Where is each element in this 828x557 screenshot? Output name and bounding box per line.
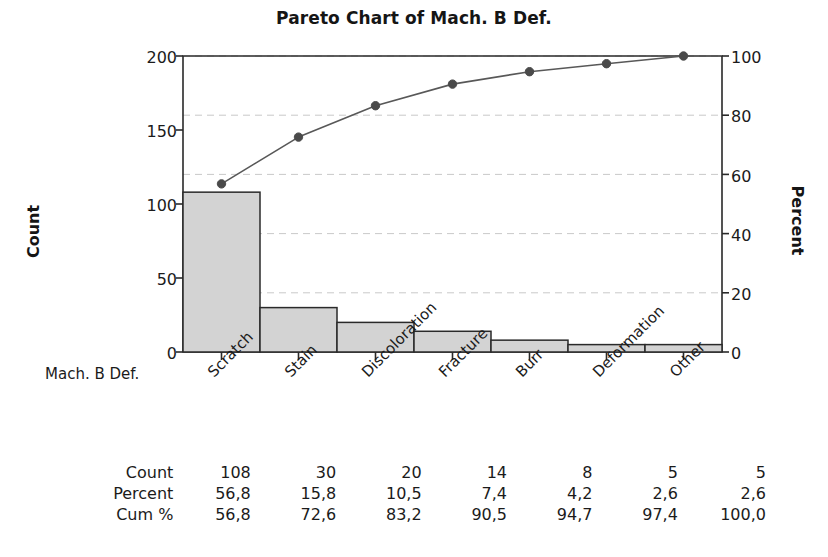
y-right-tick-0: 0 <box>731 344 775 363</box>
count-fracture: 14 <box>436 462 521 483</box>
cumulative-point-marker[interactable] <box>679 52 687 60</box>
percent-fracture: 7,4 <box>436 483 521 504</box>
percent-scratch: 56,8 <box>179 483 264 504</box>
cumulative-point-marker[interactable] <box>448 80 456 88</box>
table-row-percent: Percent 56,8 15,8 10,5 7,4 4,2 2,6 2,6 <box>60 483 780 504</box>
percent-discoloration: 10,5 <box>350 483 435 504</box>
pareto-bar[interactable] <box>183 192 260 352</box>
pareto-bar[interactable] <box>260 308 337 352</box>
count-stain: 30 <box>265 462 350 483</box>
cum-scratch: 56,8 <box>179 504 264 525</box>
count-other: 5 <box>692 462 780 483</box>
y-right-tick-40: 40 <box>731 226 775 245</box>
cum-stain: 72,6 <box>265 504 350 525</box>
cum-discoloration: 83,2 <box>350 504 435 525</box>
count-scratch: 108 <box>179 462 264 483</box>
row-label-cum: Cum % <box>60 504 179 525</box>
row-label-percent: Percent <box>60 483 179 504</box>
y-left-tick-100: 100 <box>133 196 177 215</box>
y-left-tick-200: 200 <box>133 48 177 67</box>
cumulative-point-marker[interactable] <box>294 133 302 141</box>
count-discoloration: 20 <box>350 462 435 483</box>
y-right-tick-60: 60 <box>731 167 775 186</box>
percent-stain: 15,8 <box>265 483 350 504</box>
cum-fracture: 90,5 <box>436 504 521 525</box>
y-right-tick-80: 80 <box>731 107 775 126</box>
count-deformation: 5 <box>606 462 691 483</box>
percent-burr: 4,2 <box>521 483 606 504</box>
cumulative-point-marker[interactable] <box>602 59 610 67</box>
table-row-cum: Cum % 56,8 72,6 83,2 90,5 94,7 97,4 100,… <box>60 504 780 525</box>
cumulative-point-marker[interactable] <box>217 180 225 188</box>
cumulative-line <box>222 56 684 184</box>
data-summary-table: Count 108 30 20 14 8 5 5 Percent 56,8 15… <box>60 462 780 525</box>
y-left-tick-50: 50 <box>133 270 177 289</box>
cum-other: 100,0 <box>692 504 780 525</box>
row-label-count: Count <box>60 462 179 483</box>
y-right-tick-100: 100 <box>731 48 775 67</box>
cum-burr: 94,7 <box>521 504 606 525</box>
cumulative-point-marker[interactable] <box>371 102 379 110</box>
y-left-tick-150: 150 <box>133 122 177 141</box>
y-right-tick-20: 20 <box>731 285 775 304</box>
count-burr: 8 <box>521 462 606 483</box>
table-row-count: Count 108 30 20 14 8 5 5 <box>60 462 780 483</box>
cum-deformation: 97,4 <box>606 504 691 525</box>
x-axis-name: Mach. B Def. <box>45 365 139 383</box>
y-left-tick-0: 0 <box>133 344 177 363</box>
percent-deformation: 2,6 <box>606 483 691 504</box>
cumulative-point-marker[interactable] <box>525 67 533 75</box>
percent-other: 2,6 <box>692 483 780 504</box>
